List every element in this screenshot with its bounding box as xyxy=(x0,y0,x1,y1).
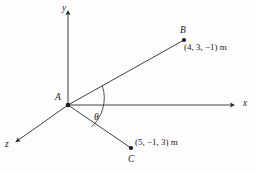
angle-theta-label: θ xyxy=(94,113,99,123)
point-c-dot xyxy=(129,146,133,150)
diagram-canvas xyxy=(0,0,257,174)
z-axis-label: z xyxy=(5,140,9,150)
x-axis-label: x xyxy=(243,99,247,109)
segment-ab xyxy=(68,40,184,105)
point-b-label: B xyxy=(180,26,186,36)
y-axis-label: y xyxy=(62,4,66,14)
point-c-label: C xyxy=(128,155,134,165)
vector-diagram-figure: y x z A B (4, 3, −1) m C (5, −1, 3) m θ xyxy=(0,0,257,174)
z-axis-line xyxy=(17,105,68,141)
point-b-coords: (4, 3, −1) m xyxy=(184,43,227,52)
point-a-label: A xyxy=(55,93,61,103)
segment-ac xyxy=(68,105,131,148)
point-a-dot xyxy=(66,103,71,108)
point-c-coords: (5, −1, 3) m xyxy=(135,138,178,147)
